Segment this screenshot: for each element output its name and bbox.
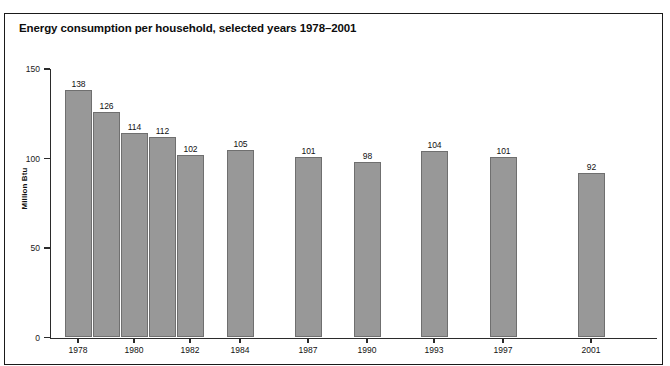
bar-1987 bbox=[295, 157, 322, 338]
bar-value-label-1993: 104 bbox=[415, 140, 454, 150]
bar-value-label-1978: 138 bbox=[59, 79, 98, 89]
bar-1981 bbox=[149, 137, 176, 337]
bar-1997 bbox=[490, 157, 517, 338]
x-axis-tick bbox=[239, 338, 240, 343]
x-axis-tick-label: 1997 bbox=[483, 345, 523, 355]
y-axis-tick bbox=[44, 68, 50, 69]
bar-1984 bbox=[227, 150, 254, 338]
x-axis-tick-label: 1978 bbox=[58, 345, 98, 355]
x-axis-tick bbox=[307, 338, 308, 343]
y-axis-tick bbox=[44, 337, 50, 338]
x-axis-tick bbox=[433, 338, 434, 343]
bar-1979 bbox=[93, 112, 120, 338]
x-axis-tick bbox=[502, 338, 503, 343]
bar-value-label-1990: 98 bbox=[348, 151, 387, 161]
y-axis-tick-label: 100 bbox=[5, 154, 40, 164]
x-axis-tick-label: 1993 bbox=[414, 345, 454, 355]
figure-header: FIGURE 3.3 bbox=[6, 0, 64, 2]
bar-value-label-1987: 101 bbox=[289, 146, 328, 156]
x-axis-tick-label: 1980 bbox=[114, 345, 154, 355]
bar-value-label-1979: 126 bbox=[87, 101, 126, 111]
y-axis-tick-label: 0 bbox=[5, 333, 40, 343]
x-axis-line bbox=[50, 338, 657, 339]
bar-1993 bbox=[421, 151, 448, 337]
y-axis-tick bbox=[44, 158, 50, 159]
y-axis-tick-label: 50 bbox=[5, 243, 40, 253]
chart-plot-area: Million Btu 050100150 138126114112102105… bbox=[5, 14, 664, 366]
x-axis-tick-label: 2001 bbox=[571, 345, 611, 355]
y-axis-tick bbox=[44, 247, 50, 248]
bar-2001 bbox=[578, 173, 605, 338]
bar-1980 bbox=[121, 133, 148, 337]
x-axis-tick bbox=[77, 338, 78, 343]
x-axis-tick bbox=[133, 338, 134, 343]
y-axis-line bbox=[50, 69, 51, 338]
x-axis-tick bbox=[366, 338, 367, 343]
y-axis-tick-label: 150 bbox=[5, 64, 40, 74]
bar-value-label-1984: 105 bbox=[221, 139, 260, 149]
bar-value-label-1997: 101 bbox=[484, 146, 523, 156]
bar-value-label-1981: 112 bbox=[143, 126, 182, 136]
y-axis-title: Million Btu bbox=[20, 154, 29, 224]
x-axis-tick bbox=[590, 338, 591, 343]
bar-value-label-1982: 102 bbox=[171, 144, 210, 154]
bar-1990 bbox=[354, 162, 381, 337]
bar-1982 bbox=[177, 155, 204, 338]
x-axis-tick-label: 1984 bbox=[220, 345, 260, 355]
bar-1978 bbox=[65, 90, 92, 337]
bar-value-label-2001: 92 bbox=[572, 162, 611, 172]
x-axis-tick-label: 1982 bbox=[170, 345, 210, 355]
x-axis-tick bbox=[189, 338, 190, 343]
figure-box: Energy consumption per household, select… bbox=[4, 13, 663, 365]
x-axis-tick-label: 1987 bbox=[288, 345, 328, 355]
x-axis-tick-label: 1990 bbox=[347, 345, 387, 355]
